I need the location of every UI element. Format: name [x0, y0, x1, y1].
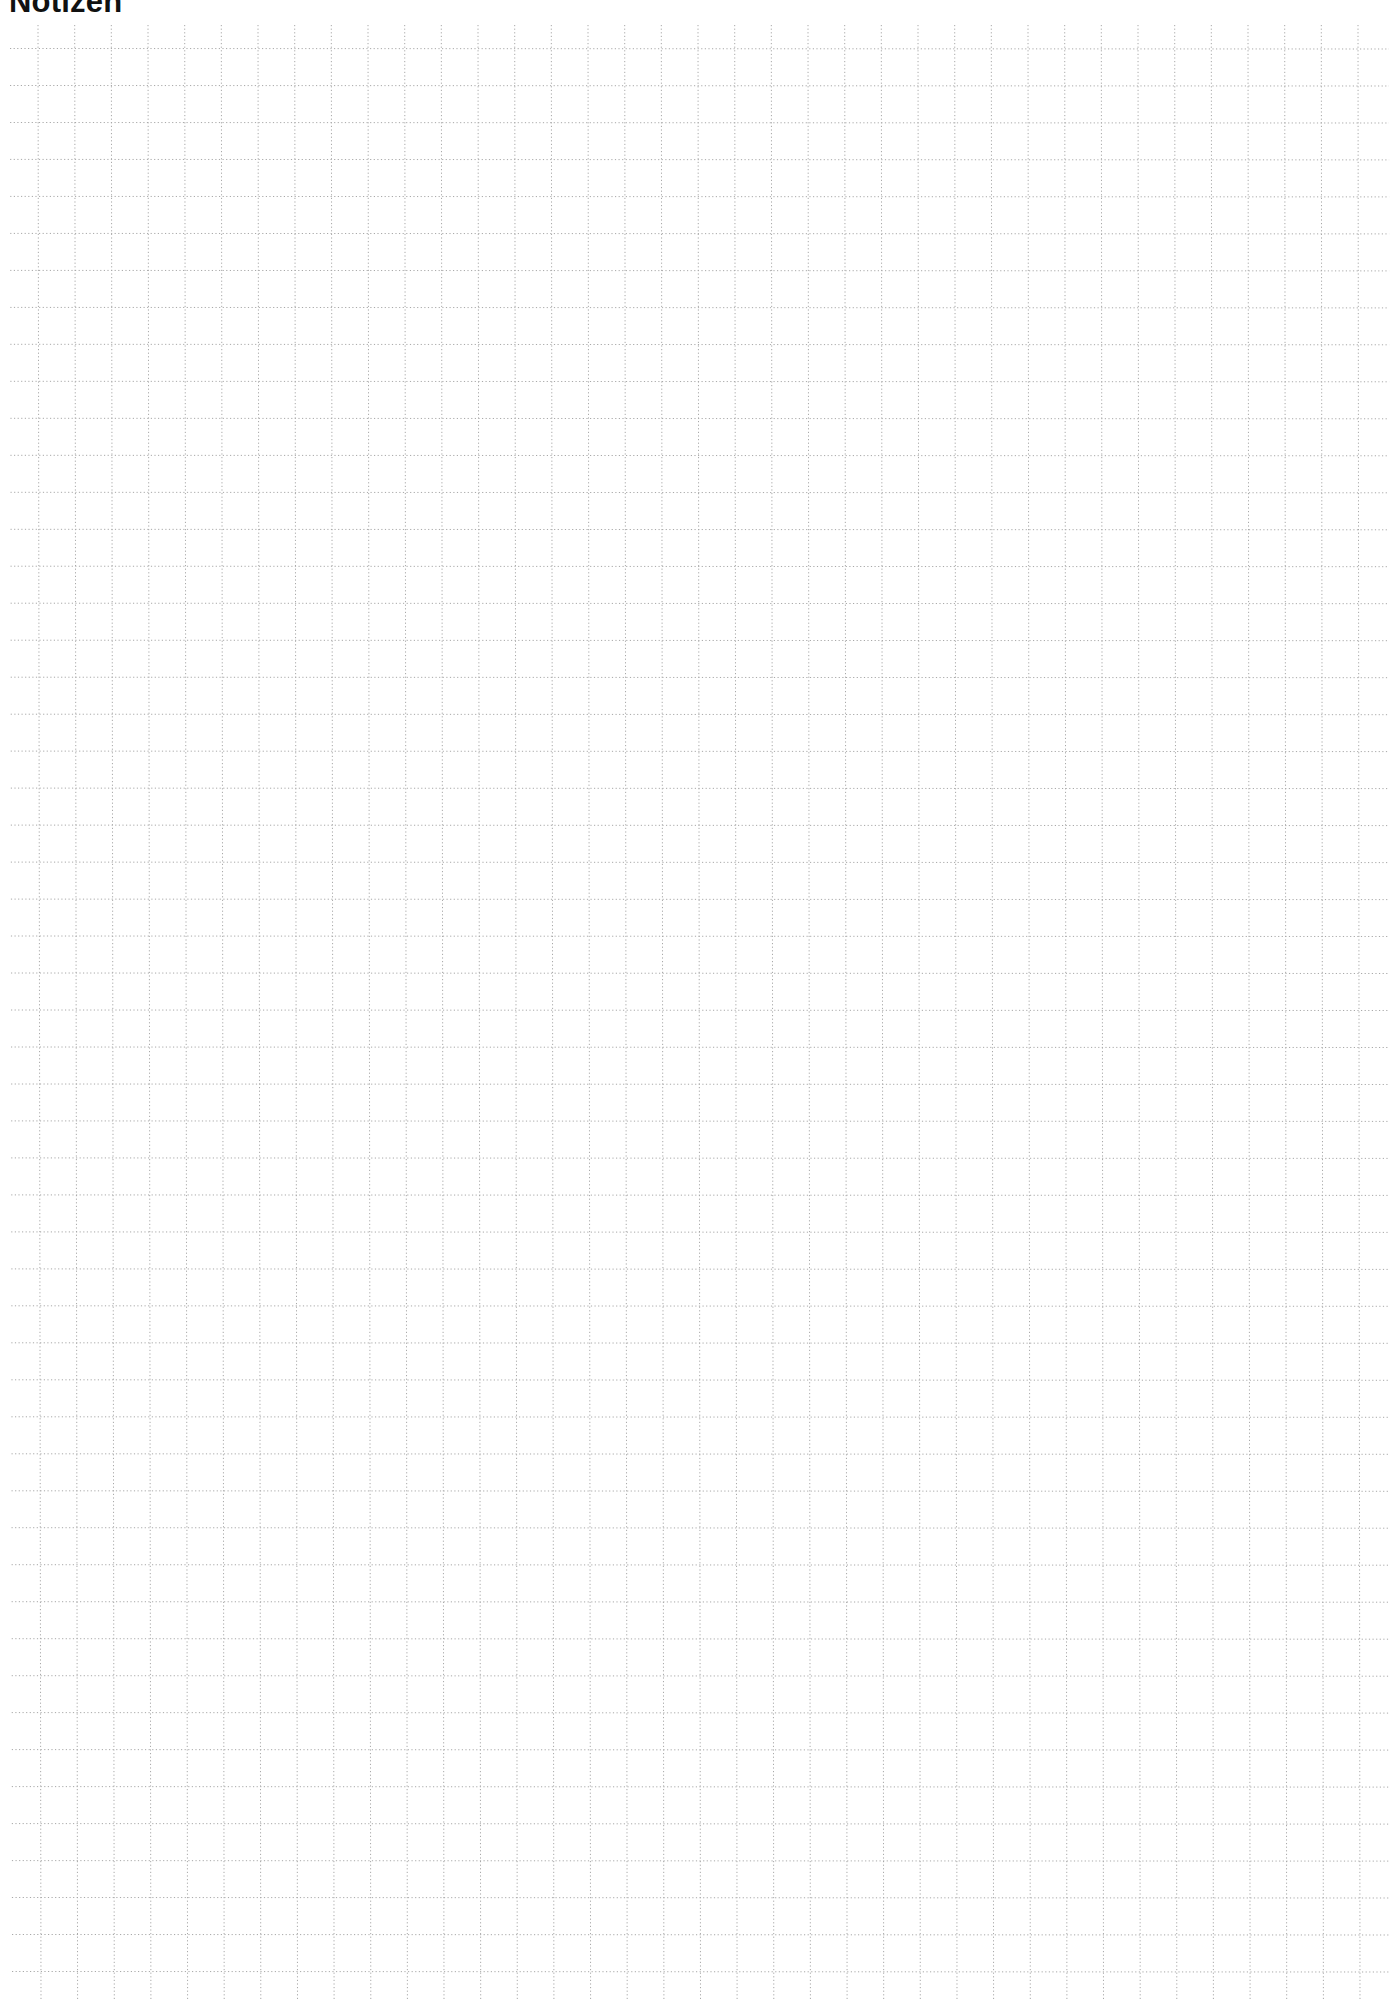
- grid-horizontal-line: [10, 123, 1389, 124]
- grid-horizontal-line: [11, 1010, 1390, 1011]
- grid-vertical-line: [661, 25, 664, 2001]
- grid-horizontal-line: [10, 381, 1389, 382]
- grid-horizontal-line: [11, 1084, 1389, 1085]
- grid-vertical-line: [295, 25, 298, 2001]
- grid-vertical-line: [405, 25, 408, 2001]
- grid-horizontal-line: [10, 307, 1389, 308]
- grid-horizontal-line: [12, 1972, 1390, 1973]
- grid-horizontal-line: [11, 1047, 1390, 1048]
- grid-horizontal-line: [11, 936, 1390, 937]
- grid-horizontal-line: [10, 159, 1389, 160]
- grid-horizontal-line: [12, 1528, 1390, 1529]
- grid-vertical-line: [368, 25, 371, 2001]
- grid-vertical-line: [111, 25, 114, 2001]
- grid-horizontal-line: [11, 899, 1390, 900]
- grid-horizontal-line: [11, 788, 1390, 789]
- grid-horizontal-line: [11, 677, 1390, 678]
- grid-vertical-line: [808, 25, 810, 2001]
- grid-horizontal-line: [11, 1195, 1389, 1196]
- grid-vertical-line: [75, 25, 78, 2001]
- grid-vertical-line: [441, 25, 444, 2001]
- grid-horizontal-line: [10, 196, 1389, 197]
- grid-horizontal-line: [11, 640, 1390, 641]
- grid-horizontal-line: [11, 1417, 1389, 1418]
- grid-horizontal-line: [11, 751, 1390, 752]
- grid-vertical-line: [1321, 25, 1323, 2001]
- grid-vertical-line: [185, 25, 188, 2001]
- grid-vertical-line: [735, 25, 737, 2001]
- grid-horizontal-line: [12, 1602, 1390, 1603]
- grid-vertical-line: [1211, 25, 1213, 2001]
- grid-horizontal-line: [11, 825, 1390, 826]
- grid-horizontal-line: [12, 1898, 1390, 1899]
- grid-vertical-line: [845, 25, 847, 2001]
- grid-horizontal-line: [11, 1158, 1389, 1159]
- grid-horizontal-line: [12, 1639, 1390, 1640]
- grid-vertical-line: [698, 25, 701, 2001]
- grid-vertical-line: [1028, 25, 1030, 2001]
- grid-vertical-line: [918, 25, 920, 2001]
- grid-horizontal-line: [12, 1565, 1390, 1566]
- grid-vertical-line: [881, 25, 883, 2001]
- grid-horizontal-line: [10, 418, 1389, 419]
- grid-horizontal-line: [12, 1491, 1390, 1492]
- grid-vertical-line: [1175, 25, 1177, 2001]
- grid-lines: [0, 0, 1395, 2015]
- grid-horizontal-line: [10, 455, 1389, 456]
- grid-vertical-line: [148, 25, 151, 2001]
- grid-vertical-line: [515, 25, 518, 2001]
- grid-horizontal-line: [11, 1121, 1390, 1122]
- grid-vertical-line: [1065, 25, 1067, 2001]
- grid-vertical-line: [991, 25, 993, 2001]
- grid-horizontal-line: [11, 973, 1390, 974]
- grid-horizontal-line: [11, 492, 1390, 493]
- grid-horizontal-line: [11, 714, 1390, 715]
- grid-horizontal-line: [11, 1306, 1389, 1307]
- grid-horizontal-line: [11, 603, 1390, 604]
- grid-horizontal-line: [10, 86, 1389, 87]
- grid-horizontal-line: [11, 1232, 1389, 1233]
- grid-horizontal-line: [10, 344, 1389, 345]
- grid-horizontal-line: [11, 566, 1390, 567]
- grid-horizontal-line: [10, 270, 1389, 271]
- grid-horizontal-line: [12, 1713, 1390, 1714]
- grid-vertical-line: [1358, 25, 1360, 2001]
- grid-horizontal-line: [11, 1343, 1389, 1344]
- grid-vertical-line: [221, 25, 224, 2001]
- grid-vertical-line: [551, 25, 554, 2001]
- dotted-grid-area[interactable]: [0, 0, 1395, 2015]
- grid-horizontal-line: [11, 1380, 1389, 1381]
- grid-vertical-line: [478, 25, 481, 2001]
- grid-horizontal-line: [12, 1787, 1390, 1788]
- grid-horizontal-line: [12, 1676, 1390, 1677]
- grid-horizontal-line: [12, 1935, 1390, 1936]
- grid-vertical-line: [38, 25, 41, 2001]
- grid-vertical-line: [955, 25, 957, 2001]
- grid-vertical-line: [1138, 25, 1140, 2001]
- grid-horizontal-line: [10, 49, 1389, 50]
- grid-horizontal-line: [10, 233, 1389, 234]
- grid-vertical-line: [1101, 25, 1103, 2001]
- grid-horizontal-line: [11, 1269, 1389, 1270]
- grid-horizontal-line: [12, 1824, 1390, 1825]
- grid-horizontal-line: [12, 1454, 1390, 1455]
- grid-vertical-line: [1285, 25, 1287, 2001]
- grid-horizontal-line: [11, 529, 1390, 530]
- grid-vertical-line: [771, 25, 774, 2001]
- grid-horizontal-line: [11, 862, 1390, 863]
- grid-vertical-line: [1248, 25, 1250, 2001]
- grid-horizontal-line: [12, 1861, 1390, 1862]
- grid-vertical-line: [258, 25, 261, 2001]
- grid-horizontal-line: [12, 1750, 1390, 1751]
- grid-vertical-line: [625, 25, 628, 2001]
- grid-vertical-line: [588, 25, 591, 2001]
- grid-vertical-line: [331, 25, 334, 2001]
